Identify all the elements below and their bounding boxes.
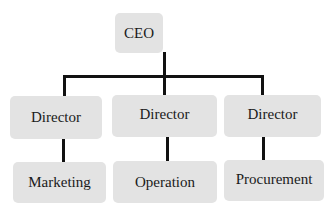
connector-ceo-down <box>163 52 166 77</box>
connector-operation <box>166 137 169 161</box>
connector-procurement <box>262 137 265 160</box>
node-marketing: Marketing <box>13 162 106 203</box>
connector-director-1 <box>63 75 66 97</box>
node-director-2: Director <box>112 95 217 137</box>
node-director-3: Director <box>224 95 321 137</box>
connector-director-2 <box>163 75 166 96</box>
connector-marketing <box>62 139 65 162</box>
node-operation: Operation <box>113 161 217 203</box>
connector-director-3 <box>261 75 264 96</box>
node-procurement: Procurement <box>224 160 324 201</box>
node-ceo: CEO <box>115 13 163 53</box>
node-director-1: Director <box>10 96 102 139</box>
